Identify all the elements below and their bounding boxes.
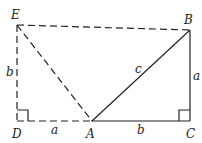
side-label-AB: c bbox=[135, 62, 142, 76]
side-label-ED: b bbox=[6, 65, 14, 79]
vertex-label-A: A bbox=[85, 127, 95, 141]
vertex-label-E: E bbox=[10, 8, 20, 22]
vertex-label-B: B bbox=[183, 13, 193, 27]
side-label-BC: a bbox=[193, 69, 200, 83]
side-label-DA: a bbox=[51, 123, 58, 137]
segment-EB bbox=[17, 25, 190, 30]
vertex-label-D: D bbox=[11, 127, 22, 141]
right-angle-marker-D bbox=[17, 110, 28, 121]
right-angle-marker-C bbox=[179, 110, 190, 121]
geometry-diagram: E B D A C c a b b a bbox=[0, 0, 202, 143]
segment-EA bbox=[17, 25, 92, 121]
vertex-label-C: C bbox=[186, 127, 195, 141]
side-label-AC: b bbox=[137, 123, 145, 137]
